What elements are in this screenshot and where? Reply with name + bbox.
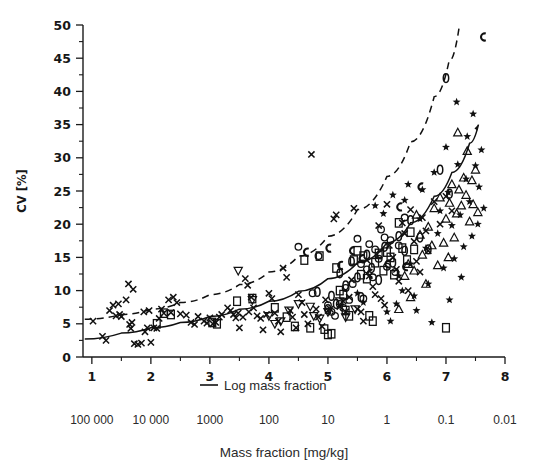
marker-filled-star <box>446 296 454 304</box>
marker-half-circle <box>481 33 486 40</box>
marker-filled-star <box>412 306 420 314</box>
y-tick-label: 20 <box>54 217 72 232</box>
y-tick-label: 40 <box>54 84 72 99</box>
marker-filled-star <box>404 180 412 188</box>
marker-x-cross <box>280 265 286 271</box>
marker-half-circle <box>359 255 364 262</box>
marker-filled-star <box>442 143 450 151</box>
marker-filled-star <box>436 207 444 215</box>
marker-filled-star <box>453 98 461 106</box>
x-tick-label: 1 <box>88 369 97 384</box>
marker-x-cross <box>313 306 319 312</box>
marker-half-circle <box>377 251 382 258</box>
marker-half-circle <box>338 262 343 269</box>
marker-filled-star <box>468 232 476 240</box>
marker-filled-star <box>471 162 479 170</box>
marker-x-cross <box>372 291 378 297</box>
marker-open-oval <box>390 258 395 267</box>
marker-x-cross <box>110 302 116 308</box>
marker-x-cross <box>381 302 387 308</box>
x-tick-label: 8 <box>501 369 510 384</box>
marker-open-oval <box>417 233 422 242</box>
y-tick-label: 25 <box>54 184 71 199</box>
marker-open-square <box>234 297 241 305</box>
marker-filled-star <box>469 110 477 118</box>
secondary-x-tick-label: 1 <box>384 413 391 427</box>
marker-filled-star <box>454 160 462 168</box>
marker-x-cross <box>370 284 376 290</box>
marker-open-square <box>395 219 402 227</box>
marker-open-triangle-down <box>294 301 302 309</box>
marker-x-cross <box>242 276 248 282</box>
marker-x-cross <box>183 312 189 318</box>
marker-half-circle <box>403 263 408 270</box>
y-tick-label: 30 <box>54 150 72 165</box>
marker-open-circle <box>366 241 373 248</box>
marker-open-triangle-up <box>457 201 465 209</box>
marker-open-triangle-up <box>434 261 442 269</box>
marker-x-cross <box>413 258 419 264</box>
marker-x-cross <box>90 318 96 324</box>
marker-open-triangle-up <box>445 199 453 207</box>
secondary-x-tick-label: 0.01 <box>493 413 517 427</box>
marker-filled-star <box>434 229 442 237</box>
y-tick-label: 45 <box>54 51 71 66</box>
y-tick-label: 0 <box>62 350 71 365</box>
marker-x-cross <box>103 337 109 343</box>
marker-open-oval <box>329 292 334 301</box>
secondary-x-tick-label: 10 <box>321 413 335 427</box>
marker-filled-star <box>457 273 465 281</box>
y-tick-label: 35 <box>54 117 71 132</box>
x-tick-label: 3 <box>206 369 215 384</box>
marker-filled-star <box>480 204 488 212</box>
secondary-x-axis-title: Mass fraction [mg/kg] <box>220 445 348 460</box>
x-tick-label: 6 <box>383 369 392 384</box>
marker-half-circle <box>326 245 331 252</box>
marker-open-square <box>301 256 308 264</box>
marker-filled-star <box>477 146 485 154</box>
secondary-x-tick-label: 1000 <box>197 413 224 427</box>
marker-open-triangle-up <box>436 193 444 201</box>
marker-x-cross <box>358 309 364 315</box>
marker-x-cross <box>301 311 307 317</box>
x-tick-label: 2 <box>147 369 156 384</box>
marker-open-circle <box>354 236 361 243</box>
secondary-x-tick-label: 100 000 <box>70 413 114 427</box>
marker-filled-star <box>463 132 471 140</box>
marker-x-cross <box>384 201 390 207</box>
marker-x-cross <box>260 327 266 333</box>
marker-open-square <box>407 228 414 236</box>
marker-filled-star <box>440 264 448 272</box>
marker-filled-star <box>387 317 395 325</box>
marker-filled-star <box>379 209 387 217</box>
secondary-x-tick-label: 0.1 <box>438 413 455 427</box>
marker-open-triangle-up <box>440 238 448 246</box>
marker-open-triangle-down <box>271 321 279 329</box>
legend-label: Log mass fraction <box>224 378 327 393</box>
marker-open-square <box>443 324 450 332</box>
marker-x-cross <box>278 329 284 335</box>
marker-open-square <box>411 245 418 253</box>
marker-x-cross <box>378 295 384 301</box>
marker-x-cross <box>141 309 147 315</box>
marker-open-triangle-up <box>474 208 482 216</box>
marker-filled-star <box>371 201 379 209</box>
marker-x-cross <box>177 311 183 317</box>
marker-open-triangle-up <box>450 233 458 241</box>
marker-x-cross <box>115 301 121 307</box>
marker-open-oval <box>402 246 407 255</box>
secondary-x-tick-label: 100 <box>259 413 279 427</box>
marker-filled-star <box>389 191 397 199</box>
marker-x-cross <box>407 206 413 212</box>
scatter-plot-svg: 05101520253035404550CV [%]12345678100 00… <box>0 0 544 472</box>
marker-x-cross <box>284 274 290 280</box>
y-tick-label: 50 <box>54 18 72 33</box>
marker-half-circle <box>304 248 309 255</box>
marker-open-triangle-down <box>234 267 242 275</box>
marker-open-triangle-up <box>442 215 450 223</box>
marker-open-triangle-up <box>454 128 462 136</box>
marker-x-cross <box>129 319 135 325</box>
series-x <box>90 151 455 347</box>
chart-figure: 05101520253035404550CV [%]12345678100 00… <box>0 0 544 472</box>
y-tick-label: 10 <box>54 283 72 298</box>
